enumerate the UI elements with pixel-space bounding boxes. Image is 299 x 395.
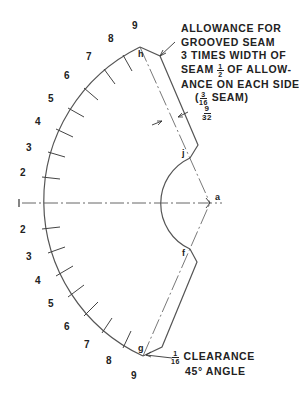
note-line-4-post: OF ALLOW- (227, 63, 291, 75)
note-line-1: ALLOWANCE FOR (181, 22, 299, 36)
scale-number-1-center: 1 (10, 198, 11, 199)
point-label-f: f (182, 249, 185, 258)
scale-number-3-bottom: 3 (26, 252, 32, 262)
clearance-line-2: 45° ANGLE (171, 365, 255, 379)
radial-line-bottom (143, 203, 210, 356)
outer-arc (44, 47, 143, 356)
inner-arc (161, 158, 190, 249)
scale-number-2-bottom: 2 (20, 225, 26, 235)
point-label-j: j (182, 149, 185, 158)
scale-number-4-bottom: 4 (35, 276, 41, 286)
dimension-nine-thirty-seconds: 932 (202, 105, 212, 122)
scale-number-6-top: 6 (64, 71, 70, 81)
note-line-2: GROOVED SEAM (181, 36, 299, 50)
scale-number-7-top: 7 (86, 52, 92, 62)
scale-number-2-top: 2 (20, 168, 26, 178)
scale-number-7-bottom: 7 (84, 340, 90, 350)
scale-number-3-top: 3 (26, 143, 32, 153)
scale-number-9-top: 9 (132, 21, 138, 31)
scale-number-8-bottom: 8 (106, 356, 112, 366)
clearance-line-1: CLEARANCE (184, 350, 255, 362)
scale-number-5-bottom: 5 (48, 299, 54, 309)
note-line-6: (316 SEAM) (181, 91, 299, 106)
seam-allowance-note: ALLOWANCE FOR GROOVED SEAM 3 TIMES WIDTH… (181, 22, 299, 106)
note-line-3: 3 TIMES WIDTH OF (181, 49, 299, 63)
note-line-4: SEAM 12 OF ALLOW- (181, 63, 299, 78)
point-label-a: a (215, 193, 220, 202)
clearance-note: 116 CLEARANCE 45° ANGLE (171, 350, 255, 379)
scale-number-4-top: 4 (35, 117, 41, 127)
note-line-4-pre: SEAM (181, 63, 214, 75)
scale-number-5-top: 5 (48, 94, 54, 104)
scale-number-9-bottom: 9 (131, 371, 137, 381)
bottom-seam-outline (143, 249, 197, 356)
fraction-half: 12 (217, 63, 224, 78)
scale-number-6-bottom: 6 (64, 322, 70, 332)
note-line-5: ANCE ON EACH SIDE (181, 78, 299, 92)
scale-number-8-top: 8 (108, 34, 114, 44)
point-label-g: g (138, 344, 144, 353)
fraction-one-sixteenth: 116 (171, 350, 180, 365)
point-label-h: h (138, 50, 144, 59)
